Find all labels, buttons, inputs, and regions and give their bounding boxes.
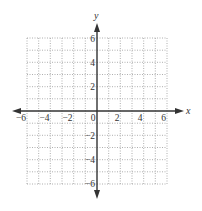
x-tick-label: −6: [16, 113, 26, 123]
x-tick-label: 4: [138, 113, 143, 123]
x-tick-label: −4: [39, 113, 49, 123]
x-tick-label: 2: [115, 113, 120, 123]
y-axis-down-arrow-icon: [94, 190, 100, 199]
y-tick-label: 2: [90, 82, 95, 92]
x-tick-label: 6: [161, 113, 166, 123]
y-tick-label: 4: [90, 58, 95, 68]
y-axis-label: y: [93, 10, 99, 21]
y-tick-label: −6: [85, 179, 95, 189]
x-axis-label: x: [185, 105, 191, 116]
x-tick-label: −2: [62, 113, 72, 123]
y-axis-up-arrow-icon: [94, 23, 100, 32]
y-tick-label: 6: [90, 34, 95, 44]
y-tick-label: −4: [85, 155, 95, 165]
x-tick-label: 0: [91, 113, 96, 123]
x-axis-right-arrow-icon: [175, 108, 184, 114]
x-axis: [12, 108, 184, 114]
y-tick-label: −2: [85, 131, 95, 141]
coordinate-plane: x y −6 −4 −2 0 2 4 6 6 4 2 −2 −4 −6: [0, 0, 202, 211]
